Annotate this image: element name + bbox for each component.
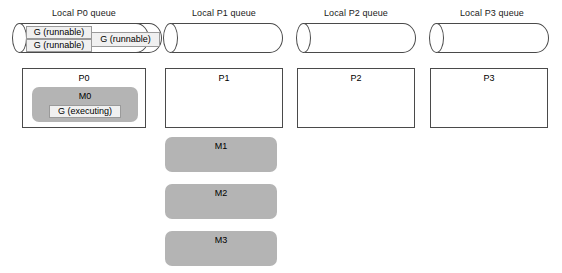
queue-title-p1: Local P1 queue: [165, 8, 283, 19]
cylinder-left-cap: [12, 23, 27, 53]
machine-box-m0: M0 G (executing): [32, 87, 138, 122]
processor-label-p2: P2: [298, 73, 414, 84]
queue-title-p2: Local P2 queue: [297, 8, 415, 19]
goroutine-chip-runnable-2: G (runnable): [26, 39, 92, 52]
goroutine-chip-runnable-3: G (runnable): [91, 32, 160, 47]
queue-title-p0: Local P0 queue: [22, 8, 146, 19]
cylinder-body: [436, 23, 536, 53]
local-queue-cylinder-p3: [429, 23, 549, 53]
processor-box-p3: P3: [430, 68, 548, 128]
machine-label-m2: M2: [165, 188, 277, 199]
machine-label-m0: M0: [32, 91, 138, 102]
cylinder-left-cap: [429, 23, 444, 53]
cylinder-body: [170, 23, 270, 53]
cylinder-left-cap: [296, 23, 311, 53]
goroutine-chip-executing: G (executing): [49, 105, 121, 118]
local-queue-cylinder-p1: [163, 23, 283, 53]
diagram-canvas: Local P0 queue Local P1 queue Local P2 q…: [0, 0, 562, 273]
processor-label-p1: P1: [166, 73, 282, 84]
queue-title-p3: Local P3 queue: [430, 8, 554, 19]
machine-label-m1: M1: [165, 141, 277, 152]
machine-label-m3: M3: [165, 235, 277, 246]
machine-box-m2: M2: [165, 184, 277, 219]
processor-box-p2: P2: [297, 68, 415, 128]
processor-label-p0: P0: [23, 73, 145, 84]
machine-box-m3: M3: [165, 231, 277, 266]
processor-box-p0: P0 M0 G (executing): [22, 68, 146, 128]
cylinder-body: [303, 23, 403, 53]
processor-box-p1: P1: [165, 68, 283, 128]
machine-box-m1: M1: [165, 137, 277, 172]
goroutine-chip-runnable-1: G (runnable): [26, 26, 92, 39]
processor-label-p3: P3: [431, 73, 547, 84]
cylinder-left-cap: [163, 23, 178, 53]
local-queue-cylinder-p2: [296, 23, 416, 53]
